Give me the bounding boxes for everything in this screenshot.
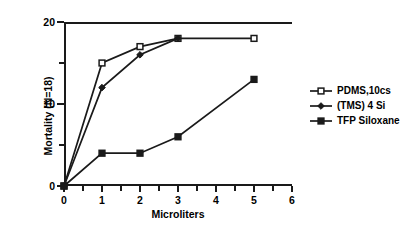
series-0	[61, 36, 257, 189]
x-tick-minor-3.5	[196, 186, 198, 191]
y-tick-label-20: 20	[43, 16, 55, 28]
x-tick-minor-4.5	[234, 186, 236, 191]
x-tick-label-6: 6	[289, 194, 295, 206]
data-point	[61, 183, 67, 189]
data-point	[99, 60, 105, 66]
legend-item-1[interactable]: (TMS) 4 Si	[308, 98, 400, 113]
series-2	[61, 77, 257, 189]
x-tick-label-1: 1	[99, 194, 105, 206]
series-line	[64, 38, 178, 186]
data-point	[251, 77, 257, 83]
x-tick-label-3: 3	[175, 194, 181, 206]
x-tick-minor-0.5	[82, 186, 84, 191]
y-tick-label-10: 10	[43, 98, 55, 110]
legend-marker-icon	[308, 115, 334, 127]
x-axis-title: Microliters	[64, 208, 292, 220]
data-point	[99, 150, 105, 156]
x-tick-3	[177, 186, 179, 192]
legend-item-0[interactable]: PDMS,10cs	[308, 83, 400, 98]
y-tick-label-0: 0	[49, 180, 55, 192]
series-1	[61, 35, 182, 189]
chart-figure: Mortality (N=18) Microliters 01020 01234…	[0, 0, 418, 231]
legend-item-2[interactable]: TFP Siloxane	[308, 113, 400, 128]
data-series-layer	[64, 22, 292, 186]
x-tick-minor-5.5	[272, 186, 274, 191]
x-tick-minor-2.5	[158, 186, 160, 191]
x-tick-label-2: 2	[137, 194, 143, 206]
x-tick-2	[139, 186, 141, 192]
legend-marker-icon	[308, 100, 334, 112]
data-point	[251, 36, 257, 42]
y-tick-20	[57, 21, 64, 23]
x-tick-5	[253, 186, 255, 192]
legend-marker-icon	[308, 85, 334, 97]
data-point	[137, 150, 143, 156]
x-tick-6	[291, 186, 293, 192]
data-point	[175, 134, 181, 140]
plot-area: 01020 0123456	[64, 22, 292, 186]
data-point	[137, 44, 143, 50]
x-tick-4	[215, 186, 217, 192]
x-tick-minor-1.5	[120, 186, 122, 191]
legend-label: (TMS) 4 Si	[334, 100, 385, 111]
legend-label: TFP Siloxane	[334, 115, 400, 126]
x-tick-label-0: 0	[61, 194, 67, 206]
legend-label: PDMS,10cs	[334, 85, 391, 96]
x-tick-label-5: 5	[251, 194, 257, 206]
x-tick-1	[101, 186, 103, 192]
legend: PDMS,10cs(TMS) 4 SiTFP Siloxane	[308, 83, 400, 128]
x-tick-label-4: 4	[213, 194, 219, 206]
y-tick-10	[57, 103, 64, 105]
y-axis-title: Mortality (N=18)	[42, 76, 54, 155]
